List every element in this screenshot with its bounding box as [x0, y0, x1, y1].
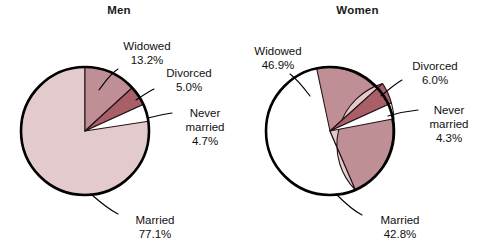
men-label-widowed-name: Widowed: [123, 40, 170, 52]
men-label-divorced-value: 5.0%: [176, 81, 202, 93]
men-leader-married: [92, 195, 118, 214]
men-label-married-value: 77.1%: [139, 228, 172, 240]
women-label-widowed-name: Widowed: [254, 45, 301, 57]
women-chart-pane: Women Widowed 46.9% Divorced 6.0% Never …: [238, 0, 477, 252]
women-label-widowed-value: 46.9%: [262, 59, 295, 71]
men-leader-never: [148, 113, 172, 118]
men-chart-pane: Men Widowed 13.2% Divorced 5.0% Never ma…: [0, 0, 238, 252]
women-label-divorced-name: Divorced: [412, 60, 457, 72]
women-pie-svg: Widowed 46.9% Divorced 6.0% Never marrie…: [238, 0, 477, 252]
men-label-widowed-value: 13.2%: [131, 54, 164, 66]
women-label-married-name: Married: [381, 214, 420, 226]
men-label-never-line2: married: [186, 121, 225, 133]
men-label-married-name: Married: [136, 214, 175, 226]
men-label-divorced-name: Divorced: [166, 67, 211, 79]
men-pie-svg: Widowed 13.2% Divorced 5.0% Never marrie…: [0, 0, 238, 252]
women-label-married-value: 42.8%: [384, 228, 417, 240]
women-label-divorced-value: 6.0%: [422, 74, 448, 86]
women-label-never-line2: married: [430, 118, 469, 130]
women-label-never-line1: Never: [434, 104, 465, 116]
women-label-never-value: 4.3%: [436, 132, 462, 144]
men-label-never-line1: Never: [190, 107, 221, 119]
men-label-never-value: 4.7%: [192, 135, 218, 147]
women-leader-married: [336, 194, 362, 215]
